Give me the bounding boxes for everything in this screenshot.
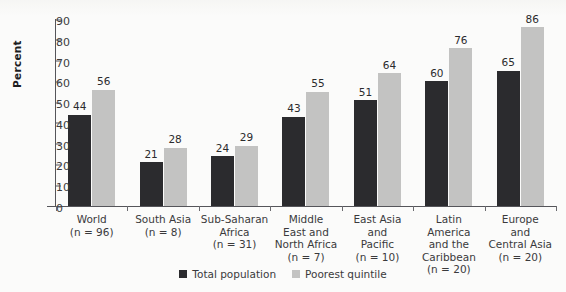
y-axis-tick-mark (56, 81, 61, 82)
y-axis-tick-mark (56, 164, 61, 165)
x-axis-tick-mark (556, 206, 557, 211)
y-axis-tick-mark (56, 102, 61, 103)
bar-poorest-quintile: 55 (306, 92, 329, 206)
category-label-line: and (342, 226, 413, 239)
category-label-line: Caribbean (413, 251, 484, 264)
bar-value-label: 28 (168, 134, 181, 148)
bar-poorest-quintile: 28 (164, 148, 187, 206)
scan-noise-band (0, 0, 566, 16)
category-label-line: Latin America (413, 213, 484, 238)
x-axis-tick-mark (127, 206, 128, 211)
bar-group: 5164 (342, 19, 413, 206)
category-sample-size: (n = 10) (342, 251, 413, 264)
category-sample-size: (n = 96) (56, 226, 127, 239)
legend-item-poorest-quintile: Poorest quintile (292, 268, 387, 280)
bar-poorest-quintile: 76 (449, 48, 472, 206)
x-axis-line (47, 206, 556, 207)
y-axis-tick-label: 50 (56, 98, 77, 111)
y-axis-tick-mark (56, 19, 61, 20)
y-axis-tick-label: 30 (56, 139, 77, 152)
y-axis-tick-label: 60 (56, 77, 77, 90)
x-axis-category-label: Sub-SaharanAfrica(n = 31) (199, 213, 270, 251)
bar-total-population: 43 (282, 117, 305, 206)
bar-value-label: 60 (430, 68, 443, 82)
bar-value-label: 86 (526, 14, 539, 28)
legend-swatch-icon (292, 270, 300, 278)
bar-value-label: 24 (216, 143, 229, 157)
category-label-line: Sub-Saharan (199, 213, 270, 226)
category-label-line: Middle (270, 213, 341, 226)
bar-group: 2429 (199, 19, 270, 206)
bar-value-label: 76 (454, 35, 467, 49)
bar-total-population: 60 (425, 81, 448, 206)
y-axis-tick-label: 40 (56, 118, 77, 131)
y-axis-tick-mark (56, 185, 61, 186)
bar-value-label: 21 (144, 149, 157, 163)
bar-group: 2128 (127, 19, 198, 206)
y-axis-tick-mark (56, 144, 61, 145)
bar-group: 6076 (413, 19, 484, 206)
bar-value-label: 51 (359, 87, 372, 101)
y-axis-tick-mark (56, 40, 61, 41)
x-axis-category-label: EuropeandCentral Asia(n = 20) (485, 213, 556, 263)
x-axis-tick-mark (199, 206, 200, 211)
category-sample-size: (n = 8) (127, 226, 198, 239)
bar-total-population: 51 (354, 100, 377, 206)
category-label-line: North Africa (270, 238, 341, 251)
y-axis-tick-label: 70 (56, 56, 77, 69)
bar-value-label: 65 (502, 57, 515, 71)
bar-value-label: 55 (311, 78, 324, 92)
bar-poorest-quintile: 29 (235, 146, 258, 206)
y-axis-tick-mark (56, 123, 61, 124)
x-axis-tick-mark (56, 206, 57, 211)
legend-item-total-population: Total population (179, 268, 276, 280)
y-axis-tick-mark (56, 61, 61, 62)
x-axis-category-label: MiddleEast andNorth Africa(n = 7) (270, 213, 341, 263)
y-axis-title: Percent (11, 40, 23, 88)
x-axis-tick-mark (270, 206, 271, 211)
x-axis-tick-mark (342, 206, 343, 211)
category-label-line: and (485, 226, 556, 239)
bar-chart: Percent 4456212824294355516460766586 010… (0, 0, 566, 292)
bar-value-label: 29 (240, 132, 253, 146)
x-axis-category-label: East AsiaandPacific(n = 10) (342, 213, 413, 263)
category-label-line: World (56, 213, 127, 226)
legend-swatch-icon (179, 270, 187, 278)
category-label-line: Africa (199, 226, 270, 239)
category-sample-size: (n = 7) (270, 251, 341, 264)
x-axis-tick-mark (413, 206, 414, 211)
x-axis-category-label: World(n = 96) (56, 213, 127, 238)
y-axis-tick-label: 20 (56, 160, 77, 173)
chart-legend: Total populationPoorest quintile (0, 268, 566, 280)
category-sample-size: (n = 20) (485, 251, 556, 264)
category-label-line: Central Asia (485, 238, 556, 251)
bar-value-label: 56 (97, 76, 110, 90)
category-label-line: East Asia (342, 213, 413, 226)
category-label-line: and the (413, 238, 484, 251)
category-sample-size: (n = 31) (199, 238, 270, 251)
plot-area: 4456212824294355516460766586 (56, 19, 556, 206)
bar-group: 4355 (270, 19, 341, 206)
bar-total-population: 24 (211, 156, 234, 206)
bar-value-label: 43 (287, 103, 300, 117)
y-axis-tick-label: 90 (56, 15, 77, 28)
y-axis-tick-label: 80 (56, 35, 77, 48)
bar-poorest-quintile: 56 (92, 90, 115, 206)
bar-value-label: 64 (383, 60, 396, 74)
category-label-line: East and (270, 226, 341, 239)
x-axis-category-label: South Asia(n = 8) (127, 213, 198, 238)
x-axis-tick-mark (485, 206, 486, 211)
bar-group: 6586 (485, 19, 556, 206)
bar-poorest-quintile: 64 (378, 73, 401, 206)
y-axis-tick-label: 10 (56, 181, 77, 194)
bar-total-population: 21 (140, 162, 163, 206)
category-label-line: Europe (485, 213, 556, 226)
category-label-line: South Asia (127, 213, 198, 226)
category-label-line: Pacific (342, 238, 413, 251)
x-axis-category-label: Latin Americaand theCaribbean(n = 20) (413, 213, 484, 276)
bar-poorest-quintile: 86 (521, 27, 544, 206)
bar-total-population: 65 (497, 71, 520, 206)
legend-label: Total population (192, 268, 276, 280)
legend-label: Poorest quintile (305, 268, 387, 280)
